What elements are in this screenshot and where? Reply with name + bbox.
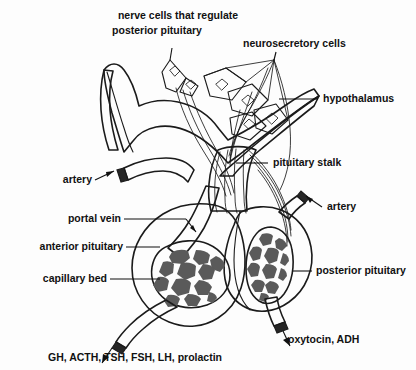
- label-posterior-pituitary: posterior pituitary: [316, 264, 406, 276]
- label-neurosecretory-cells: neurosecretory cells: [243, 37, 346, 49]
- figure-background: [0, 0, 416, 370]
- label-anterior-pituitary: anterior pituitary: [40, 240, 124, 252]
- label-capillary-bed: capillary bed: [43, 272, 107, 284]
- label-posterior-hormones: oxytocin, ADH: [288, 333, 359, 345]
- label-nerve-cells-line1: nerve cells that regulate: [118, 9, 238, 21]
- label-nerve-cells-line2: posterior pituitary: [112, 24, 202, 36]
- label-anterior-hormones: GH, ACTH, TSH, FSH, LH, prolactin: [48, 351, 222, 363]
- pituitary-diagram: nerve cells that regulate posterior pitu…: [0, 0, 416, 370]
- label-pituitary-stalk: pituitary stalk: [273, 156, 341, 168]
- pituitary-gland-figure: nerve cells that regulate posterior pitu…: [0, 0, 416, 370]
- label-portal-vein: portal vein: [68, 212, 121, 224]
- label-hypothalamus: hypothalamus: [323, 92, 394, 104]
- label-artery-right: artery: [327, 200, 356, 212]
- label-artery-left: artery: [63, 173, 92, 185]
